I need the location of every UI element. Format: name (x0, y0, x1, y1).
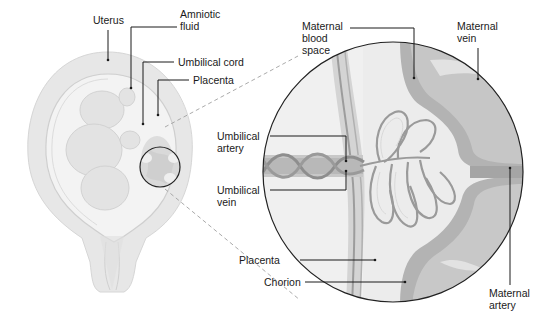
label-maternal-artery: Maternal artery (489, 287, 530, 311)
label-umbilical-vein: Umbilical vein (217, 184, 260, 208)
label-maternal-blood-space: Maternal blood space (302, 20, 343, 56)
label-maternal-vein: Maternal vein (457, 20, 498, 44)
label-umbilical-artery: Umbilical artery (217, 130, 260, 154)
label-chorion: Chorion (264, 276, 301, 288)
placenta-diagram: Uterus Amniotic fluid Umbilical cord Pla… (0, 0, 557, 330)
label-placenta-overview: Placenta (193, 74, 234, 86)
label-amniotic-fluid: Amniotic fluid (180, 8, 220, 32)
placenta-detail-view (263, 40, 530, 310)
label-placenta-detail: Placenta (239, 254, 280, 266)
label-umbilical-cord: Umbilical cord (178, 56, 244, 68)
uterus-overview (28, 52, 193, 292)
label-uterus: Uterus (93, 14, 124, 26)
